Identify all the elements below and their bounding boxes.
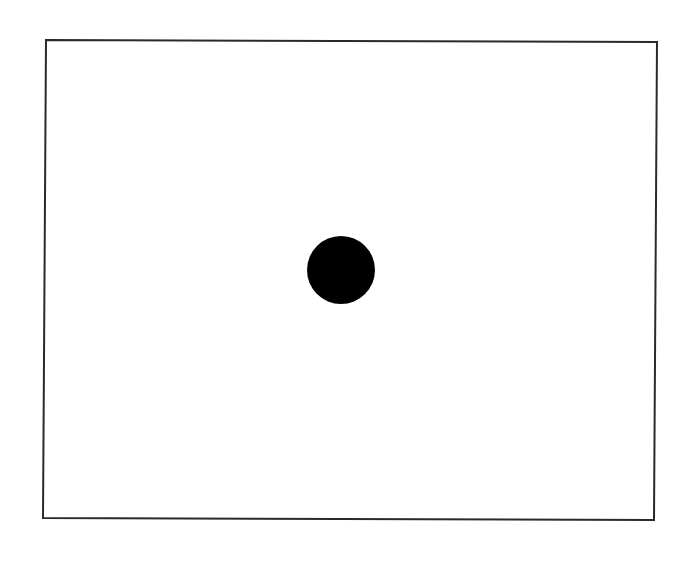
diagram-canvas (0, 0, 690, 561)
filled-dot (307, 236, 375, 304)
diagram-svg (0, 0, 690, 561)
